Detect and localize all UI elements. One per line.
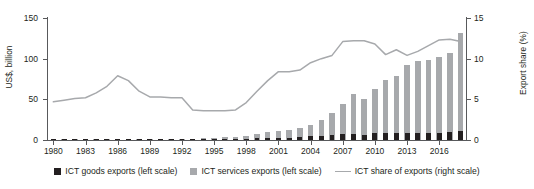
legend-item-1[interactable]: ICT goods exports (left scale) — [54, 166, 177, 176]
x-tick — [150, 141, 151, 145]
x-tick — [86, 141, 87, 145]
y-tick-left — [43, 99, 47, 100]
y-tick-right — [467, 18, 471, 19]
chart-legend: ICT goods exports (left scale)ICT servic… — [0, 166, 534, 176]
y-tick-label-right: 15 — [474, 13, 498, 23]
y-tick-label-left: 0 — [8, 135, 38, 145]
x-tick — [375, 141, 376, 145]
x-tick — [439, 141, 440, 145]
y-tick-right — [467, 59, 471, 60]
x-tick — [246, 141, 247, 145]
x-tick — [118, 141, 119, 145]
x-tick — [407, 141, 408, 145]
x-tick — [311, 141, 312, 145]
legend-label: ICT goods exports (left scale) — [65, 166, 177, 176]
y-tick-left — [43, 59, 47, 60]
y-tick-label-left: 100 — [8, 54, 38, 64]
y-tick-label-left: 150 — [8, 13, 38, 23]
y-tick-label-right: 5 — [474, 94, 498, 104]
plot-area — [48, 18, 466, 140]
line-layer — [48, 18, 466, 140]
legend-item-2[interactable]: ICT services exports (left scale) — [190, 166, 321, 176]
y-axis-right-title: Export share (%) — [518, 18, 528, 108]
x-axis-line — [47, 140, 467, 141]
legend-item-3[interactable]: ICT share of exports (right scale) — [335, 166, 480, 176]
legend-label: ICT services exports (left scale) — [201, 166, 321, 176]
x-tick — [214, 141, 215, 145]
ict-share-line — [53, 39, 460, 111]
y-tick-label-right: 0 — [474, 135, 498, 145]
x-tick — [343, 141, 344, 145]
x-tick-label: 2016 — [419, 146, 459, 156]
x-tick — [278, 141, 279, 145]
y-tick-right — [467, 99, 471, 100]
legend-line-icon — [335, 171, 351, 172]
y-tick-left — [43, 18, 47, 19]
x-tick — [182, 141, 183, 145]
y-tick-left — [43, 140, 47, 141]
y-tick-label-left: 50 — [8, 94, 38, 104]
legend-square-icon — [190, 168, 197, 175]
x-tick — [53, 141, 54, 145]
y-axis-left-title: US$, billion — [4, 32, 14, 102]
legend-label: ICT share of exports (right scale) — [355, 166, 480, 176]
chart-figure: US$, billion Export share (%) 050100150 … — [0, 0, 534, 189]
y-tick-label-right: 10 — [474, 54, 498, 64]
y-axis-right-line — [466, 17, 467, 141]
y-tick-right — [467, 140, 471, 141]
legend-square-icon — [54, 168, 61, 175]
